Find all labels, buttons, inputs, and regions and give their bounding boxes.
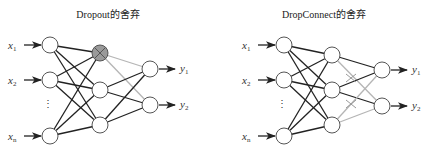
svg-text:⋮: ⋮ (43, 98, 53, 109)
svg-text:y2: y2 (411, 99, 421, 113)
dropout-network-diagram: ⋮ x1 x2 xn y1 y2 (0, 0, 216, 158)
svg-text:y2: y2 (179, 98, 189, 112)
svg-text:x1: x1 (241, 39, 251, 53)
dropout-panel: Dropout的舍弃 (0, 0, 216, 158)
svg-text:y1: y1 (411, 63, 421, 77)
output-node (374, 62, 390, 78)
input-node (42, 37, 58, 53)
input-node (276, 37, 292, 53)
input-node (276, 128, 292, 144)
dropconnect-network-diagram: ⋮ x1 x2 xn y1 y2 (216, 0, 432, 158)
hidden-node (92, 117, 108, 133)
svg-text:⋮: ⋮ (277, 98, 287, 109)
svg-text:x1: x1 (7, 39, 17, 53)
output-node (142, 97, 158, 113)
dropconnect-panel: DropConnect的舍弃 (216, 0, 432, 158)
svg-text:x2: x2 (241, 74, 251, 88)
output-node (374, 98, 390, 114)
hidden-node (92, 82, 108, 98)
svg-text:xn: xn (241, 130, 251, 144)
input-node (42, 72, 58, 88)
input-node (42, 128, 58, 144)
hidden-node (324, 47, 340, 63)
hidden-node (324, 82, 340, 98)
svg-text:y1: y1 (179, 62, 189, 76)
dropped-connection-x-icons (346, 74, 356, 108)
svg-text:xn: xn (7, 130, 17, 144)
input-node (276, 72, 292, 88)
hidden-node (324, 117, 340, 133)
output-node (142, 61, 158, 77)
svg-text:x2: x2 (7, 74, 17, 88)
